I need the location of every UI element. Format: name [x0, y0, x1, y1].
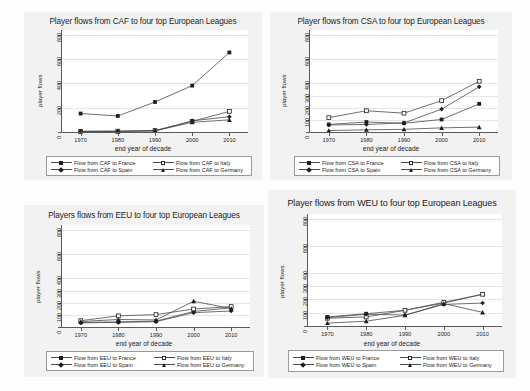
legend-label: Flow from CAF to Germany: [176, 167, 243, 173]
legend-entry[interactable]: Flow from CAF to Germany: [149, 166, 251, 173]
x-axis-tick-label: 2000: [180, 137, 204, 143]
x-axis-tick-label: 2010: [219, 332, 243, 338]
legend-label: Flow from CSA to Germany: [424, 167, 491, 173]
legend-label: Flow from CAF to France: [74, 160, 135, 166]
legend-weu: Flow from WEU to FranceFlow from WEU to …: [288, 350, 504, 372]
x-axis-title-caf: end year of decade: [24, 145, 262, 152]
legend-entry[interactable]: Flow from CSA to Spain: [295, 166, 397, 173]
legend-label: Flow from EEU to France: [74, 355, 136, 361]
legend-marker-icon: [293, 361, 314, 368]
x-axis-tick-label: 2000: [432, 331, 456, 337]
legend-label: Flow from CSA to Italy: [424, 160, 478, 166]
figure-root: Player flows from CAF to four top Europe…: [0, 0, 530, 391]
legend-entry[interactable]: Flow from CAF to Spain: [47, 166, 149, 173]
series-flow-from-caf-to-france: [79, 51, 232, 118]
y-axis-tick-label: 0: [302, 330, 308, 333]
chart-panel-weu: Player flows from WEU to four top Europe…: [268, 190, 516, 378]
legend-marker-icon: [154, 361, 175, 368]
plot-area-csa: [310, 30, 498, 132]
x-axis-tick: [81, 328, 82, 331]
legend-label: Flow from CSA to Spain: [322, 167, 380, 173]
y-axis-tick-label: 600: [304, 57, 310, 66]
x-axis-tick-label: 1990: [144, 332, 168, 338]
x-axis-tick-label: 2010: [467, 137, 491, 143]
x-axis-tick-label: 1970: [317, 137, 341, 143]
y-axis-tick-label: 800: [302, 217, 308, 226]
x-axis-tick-label: 1980: [354, 137, 378, 143]
x-axis-title-weu: end year of decade: [268, 340, 516, 347]
legend-entry[interactable]: Flow from CSA to Italy: [397, 159, 499, 166]
legend-entry[interactable]: Flow from CSA to France: [295, 159, 397, 166]
chart-panel-eeu: Players flows from EEU to four top Europ…: [24, 205, 264, 377]
y-axis-title-caf: player flows: [36, 74, 43, 107]
y-axis-title-weu: player flows: [278, 265, 285, 298]
x-axis-tick: [444, 327, 445, 330]
legend-label: Flow from EEU to Spain: [74, 362, 133, 368]
legend-entry[interactable]: Flow from EEU to Italy: [150, 354, 253, 361]
legend-entry[interactable]: Flow from EEU to Spain: [47, 361, 150, 368]
legend-entry[interactable]: Flow from EEU to France: [47, 354, 150, 361]
y-axis-tick-label: 200: [56, 301, 62, 310]
y-axis-tick-label: 600: [56, 57, 62, 66]
y-axis-tick-label: 300: [56, 289, 62, 298]
y-axis-tick-label: 200: [302, 297, 308, 306]
chart-title-weu: Player flows from WEU to four top Europe…: [268, 198, 516, 208]
x-axis-tick: [405, 327, 406, 330]
x-axis-tick: [329, 133, 330, 136]
plot-area-weu: [308, 214, 502, 326]
legend-entry[interactable]: Flow from CAF to France: [47, 159, 149, 166]
y-axis-tick-label: 200: [56, 106, 62, 115]
legend-eeu: Flow from EEU to FranceFlow from EEU to …: [46, 351, 254, 371]
legend-marker-icon: [401, 166, 422, 173]
legend-label: Flow from WEU to France: [316, 355, 379, 361]
x-axis-title-eeu: end year of decade: [24, 340, 264, 347]
y-axis-tick-label: 300: [302, 284, 308, 293]
legend-label: Flow from WEU to Germany: [423, 362, 492, 368]
y-axis-tick-label: 400: [56, 81, 62, 90]
y-axis-tick-label: 100: [302, 311, 308, 320]
y-axis-tick-label: 200: [304, 106, 310, 115]
legend-marker-icon: [400, 354, 421, 361]
legend-marker-icon: [400, 361, 421, 368]
x-axis-tick-label: 2010: [471, 331, 495, 337]
legend-entry[interactable]: Flow from WEU to Spain: [289, 361, 396, 368]
legend-entry[interactable]: Flow from WEU to France: [289, 354, 396, 361]
y-axis-tick-label: 400: [304, 81, 310, 90]
legend-label: Flow from EEU to Germany: [177, 362, 244, 368]
legend-marker-icon: [51, 354, 72, 361]
x-axis-tick-label: 1980: [354, 331, 378, 337]
legend-entry[interactable]: Flow from CAF to Italy: [149, 159, 251, 166]
plot-area-eeu: [62, 225, 250, 327]
x-axis-tick-label: 1990: [143, 137, 167, 143]
x-axis-title-csa: end year of decade: [270, 145, 512, 152]
x-axis-tick: [366, 133, 367, 136]
x-axis-tick-label: 1970: [69, 332, 93, 338]
legend-entry[interactable]: Flow from CSA to Germany: [397, 166, 499, 173]
legend-marker-icon: [154, 354, 175, 361]
legend-entry[interactable]: Flow from WEU to Germany: [396, 361, 503, 368]
series-flow-from-weu-to-germany: [325, 301, 485, 325]
y-axis-tick-label: 400: [302, 271, 308, 280]
y-axis-tick: [306, 132, 309, 133]
y-axis-tick-label: 600: [302, 244, 308, 253]
chart-title-csa: Player flows from CSA to four top Europe…: [270, 17, 512, 26]
x-axis-tick-label: 1970: [315, 331, 339, 337]
series-flow-from-csa-to-spain: [327, 85, 482, 128]
y-axis-tick-label: 300: [304, 94, 310, 103]
chart-panel-csa: Player flows from CSA to four top Europe…: [270, 12, 512, 180]
legend-label: Flow from CAF to Spain: [74, 167, 132, 173]
legend-marker-icon: [51, 159, 72, 166]
x-axis-tick: [194, 328, 195, 331]
legend-entry[interactable]: Flow from EEU to Germany: [150, 361, 253, 368]
y-axis-tick-label: 100: [304, 118, 310, 127]
x-axis-tick-label: 1980: [106, 332, 130, 338]
legend-entry[interactable]: Flow from WEU to Italy: [396, 354, 503, 361]
chart-title-caf: Player flows from CAF to four top Europe…: [24, 17, 262, 26]
y-axis-tick: [58, 132, 61, 133]
legend-marker-icon: [51, 166, 72, 173]
x-axis-tick: [192, 133, 193, 136]
y-axis-line: [307, 214, 308, 326]
chart-panel-caf: Player flows from CAF to four top Europe…: [24, 12, 262, 180]
legend-marker-icon: [51, 361, 72, 368]
series-layer: [310, 30, 498, 132]
